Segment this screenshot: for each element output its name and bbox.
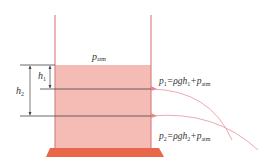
p2-equation: p2=ρgh2+patm <box>158 131 211 142</box>
h2-arrow-head-down <box>29 112 32 116</box>
h2-label: h2 <box>16 85 24 97</box>
liquid-body <box>55 65 151 150</box>
p1-equation: p1=ρgh1+patm <box>158 76 211 87</box>
hydrostatic-diagram: patm h1 h2 p1=ρgh1+patm p2=ρgh2+patm <box>0 0 268 167</box>
h1-arrow-head-up <box>49 66 52 70</box>
h1-label: h1 <box>38 70 46 82</box>
surface-pressure-label: patm <box>91 51 106 62</box>
h1-arrow-head-down <box>49 85 52 89</box>
h2-arrow-head-up <box>29 66 32 70</box>
orifice-upper <box>151 86 157 91</box>
container-base <box>46 148 164 157</box>
